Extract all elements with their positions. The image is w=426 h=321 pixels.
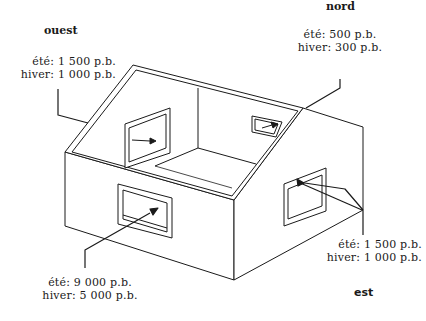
direction-north-label: nord [326,0,355,13]
south-winter-value: hiver: 5 000 p.b. [30,289,150,302]
direction-west-label: ouest [44,24,78,37]
south-summer-value: été: 9 000 p.b. [30,276,150,289]
north-winter-value: hiver: 300 p.b. [290,41,390,54]
east-summer-value: été: 1 500 p.b. [310,238,422,251]
west-winter-value: hiver: 1 000 p.b. [4,68,116,81]
east-heat-label: été: 1 500 p.b. hiver: 1 000 p.b. [310,238,422,264]
north-heat-label: été: 500 p.b. hiver: 300 p.b. [290,28,390,54]
east-winter-value: hiver: 1 000 p.b. [310,251,422,264]
north-summer-value: été: 500 p.b. [290,28,390,41]
south-heat-label: été: 9 000 p.b. hiver: 5 000 p.b. [30,276,150,302]
direction-east-label: est [354,286,373,299]
west-heat-label: été: 1 500 p.b. hiver: 1 000 p.b. [4,55,116,81]
west-summer-value: été: 1 500 p.b. [4,55,116,68]
